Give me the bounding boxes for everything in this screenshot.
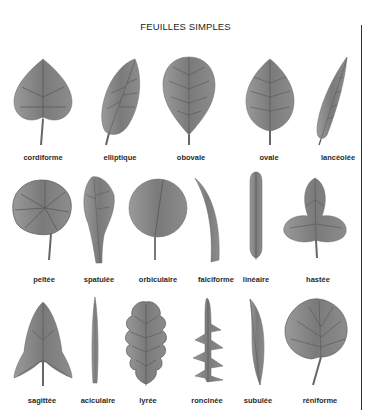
leaf-orbiculaire-illustration [127, 178, 189, 262]
label-elliptique: elliptique [85, 153, 155, 162]
label-ovale: ovale [234, 153, 304, 162]
leaf-sagittee-illustration [12, 300, 74, 388]
label-subulee: subulée [223, 396, 293, 405]
leaf-lyree-illustration [122, 298, 170, 388]
leaf-spatulee-illustration [80, 175, 116, 265]
label-reniforme: réniforme [285, 396, 355, 405]
leaf-obovale-illustration [161, 55, 217, 147]
label-lineaire: linéaire [221, 275, 291, 284]
label-hastee: hastée [283, 275, 353, 284]
leaf-falciforme-illustration [193, 176, 223, 264]
label-cordiforme: cordiforme [8, 153, 78, 162]
leaf-peltee-illustration [11, 178, 73, 262]
leaf-roncinee-illustration [191, 296, 227, 384]
leaf-ovale-illustration [244, 57, 296, 147]
leaf-lineaire-illustration [248, 170, 264, 262]
plate-title: FEUILLES SIMPLES [0, 21, 371, 32]
vertical-rule [361, 25, 362, 410]
leaf-aciculaire-illustration [89, 295, 101, 387]
leaf-lanceolee-illustration [313, 55, 349, 147]
leaf-elliptique-illustration [97, 57, 145, 147]
label-obovale: obovale [156, 153, 226, 162]
label-lanceolee: lancéolée [303, 153, 371, 162]
leaf-cordiforme-illustration [10, 57, 76, 147]
leaf-hastee-illustration [282, 176, 348, 260]
leaf-reniforme-illustration [283, 297, 349, 389]
leaf-subulee-illustration [248, 297, 266, 387]
